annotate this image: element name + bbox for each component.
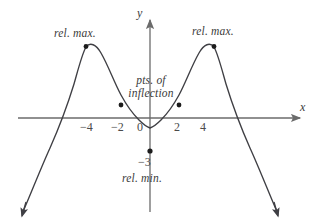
x-tick-label-minus2: −2: [111, 120, 124, 135]
x-tick-label-zero: 0: [137, 120, 143, 135]
x-tick-label-2: 2: [174, 120, 180, 135]
annotation-rel-max-left: rel. max.: [54, 27, 96, 40]
annotation-rel-max-right: rel. max.: [192, 25, 234, 38]
annotation-inflection-line1: pts. of: [118, 74, 184, 87]
x-tick-label-4: 4: [200, 120, 206, 135]
right-tail-arrow-icon: [274, 202, 278, 216]
point-rel-min: [147, 148, 152, 153]
point-inflection-left: [119, 103, 124, 108]
y-axis-label: y: [137, 6, 142, 21]
x-tick-label-minus4: −4: [80, 120, 93, 135]
left-tail-arrow-icon: [22, 202, 26, 216]
point-rel-max-left: [84, 44, 89, 49]
curve-plot: [0, 0, 325, 223]
x-axis-label: x: [300, 100, 305, 115]
point-rel-max-right: [212, 44, 217, 49]
annotation-rel-min: rel. min.: [122, 172, 162, 185]
graph-figure: x y −4 −2 0 2 4 −3 rel. max. rel. max. p…: [0, 0, 325, 223]
annotation-inflection-line2: inflection: [118, 87, 184, 100]
annotation-inflection: pts. of inflection: [118, 74, 184, 100]
y-tick-label-minus3: −3: [138, 155, 151, 170]
point-inflection-right: [177, 103, 182, 108]
